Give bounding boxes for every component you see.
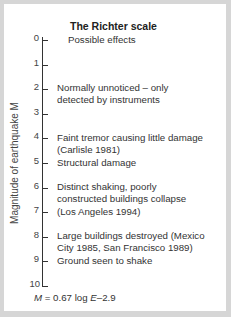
- tick-1: [42, 65, 48, 66]
- tick-label-1: 1: [19, 58, 39, 68]
- tick-10: [42, 286, 48, 287]
- tick-6: [42, 188, 48, 189]
- tick-label-4: 4: [19, 131, 39, 141]
- formula-rest: –2.9: [97, 292, 116, 303]
- effect-magnitude-6: Distinct shaking, poorly constructed bui…: [57, 181, 186, 218]
- tick-4: [42, 138, 48, 139]
- tick-label-9: 9: [19, 254, 39, 264]
- effect-magnitude-5: Structural damage: [57, 157, 136, 169]
- diagram-title: The Richter scale: [70, 20, 157, 32]
- effect-line: Faint tremor causing little damage: [57, 132, 203, 144]
- tick-3: [42, 114, 48, 115]
- tick-2: [42, 89, 48, 90]
- effect-line: (Carlisle 1981): [57, 144, 203, 156]
- effect-line: detected by instruments: [57, 94, 168, 106]
- formula-m: M: [34, 292, 42, 303]
- tick-0: [42, 40, 48, 41]
- effect-line: Structural damage: [57, 157, 136, 169]
- effect-magnitude-8: Large buildings destroyed (Mexico City 1…: [57, 230, 205, 255]
- tick-label-7: 7: [19, 205, 39, 215]
- y-axis-label-text: Magnitude of earthquake M: [9, 102, 20, 224]
- y-axis-label: Magnitude of earthquake M: [9, 102, 20, 224]
- effect-line: City 1985, San Francisco 1989): [57, 242, 205, 254]
- effect-line: constructed buildings collapse: [57, 193, 186, 205]
- tick-7: [42, 212, 48, 213]
- effect-magnitude-9: Ground seen to shake: [57, 255, 152, 267]
- effect-magnitude-4: Faint tremor causing little damage (Carl…: [57, 132, 203, 157]
- tick-5: [42, 163, 48, 164]
- richter-formula: M = 0.67 log E–2.9: [34, 292, 116, 303]
- effect-line: Distinct shaking, poorly: [57, 181, 186, 193]
- effect-line: Ground seen to shake: [57, 255, 152, 267]
- tick-label-10: 10: [20, 279, 40, 289]
- effect-magnitude-2: Normally unnoticed – only detected by in…: [57, 82, 168, 107]
- tick-label-8: 8: [19, 230, 39, 240]
- effect-line: Large buildings destroyed (Mexico: [57, 230, 205, 242]
- tick-label-6: 6: [19, 181, 39, 191]
- tick-label-3: 3: [19, 107, 39, 117]
- tick-label-0: 0: [19, 33, 39, 43]
- formula-eq: = 0.67 log: [42, 292, 90, 303]
- tick-9: [42, 261, 48, 262]
- tick-label-2: 2: [19, 82, 39, 92]
- effect-line: Normally unnoticed – only: [57, 82, 168, 94]
- magnitude-axis: [42, 37, 43, 287]
- tick-8: [42, 237, 48, 238]
- tick-label-5: 5: [19, 156, 39, 166]
- effect-line: (Los Angeles 1994): [57, 206, 186, 218]
- column-header: Possible effects: [68, 34, 136, 46]
